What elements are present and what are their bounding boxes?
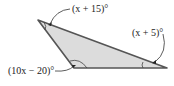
angle-label-right: (x + 5)° — [132, 27, 163, 38]
triangle-diagram: (x + 15)° (x + 5)° (10x − 20)° — [0, 0, 174, 86]
leader-right — [155, 34, 164, 62]
angle-label-top: (x + 15)° — [72, 3, 108, 14]
leader-bottom — [55, 66, 74, 71]
leader-top — [50, 9, 70, 24]
angle-label-bottom: (10x − 20)° — [8, 65, 54, 76]
